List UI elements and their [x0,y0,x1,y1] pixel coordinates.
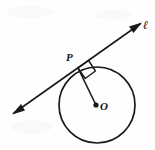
geometry-figure: P O ℓ [0,0,155,150]
arrowhead-lower-left-icon [12,104,25,115]
tangent-line [14,24,140,113]
arrowhead-upper-right-icon [129,23,142,34]
label-center-o: O [100,101,108,112]
radius-segment [78,68,96,105]
center-point-dot [93,102,98,107]
figure-canvas [0,0,155,150]
label-tangent-point-p: P [66,52,73,63]
label-line-ell: ℓ [143,19,148,31]
right-angle-marker [78,61,95,79]
